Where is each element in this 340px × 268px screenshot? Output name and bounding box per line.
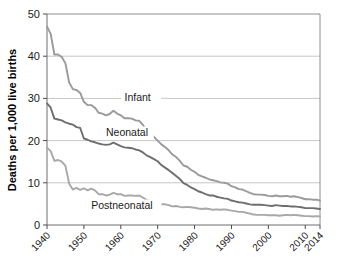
- y-tick-label-20: 20: [28, 135, 40, 147]
- series-annotation-postneonatal: Postneonatal: [91, 199, 152, 211]
- series-annotation-neonatal: Neonatal: [106, 126, 148, 138]
- y-tick-label-30: 30: [28, 92, 40, 104]
- y-tick-label-0: 0: [34, 219, 40, 231]
- chart-container: 01020304050 1940195019601970198019902000…: [0, 0, 340, 268]
- y-axis-title: Deaths per 1,000 live births: [6, 49, 18, 191]
- y-tick-label-50: 50: [28, 8, 40, 20]
- y-tick-label-40: 40: [28, 50, 40, 62]
- y-tick-label-10: 10: [28, 177, 40, 189]
- mortality-rate-line-chart: 01020304050 1940195019601970198019902000…: [0, 0, 340, 268]
- series-annotation-infant: Infant: [124, 91, 150, 103]
